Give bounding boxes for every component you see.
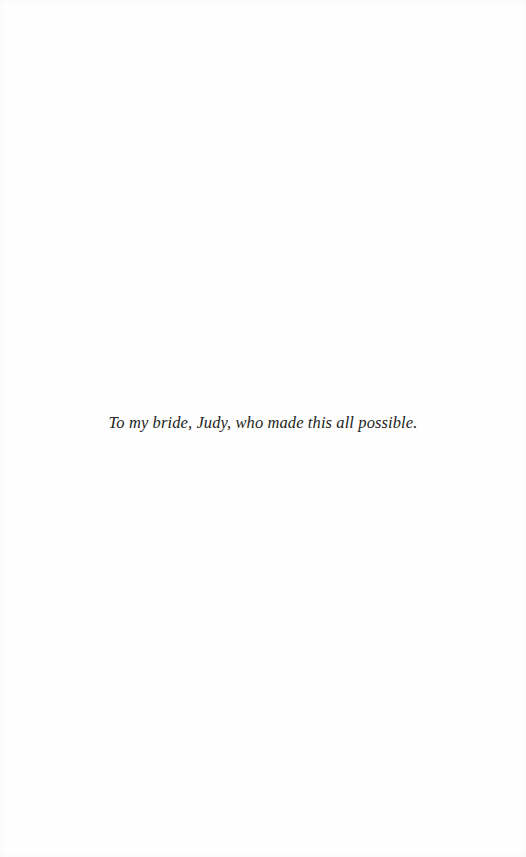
book-page: To my bride, Judy, who made this all pos…: [0, 0, 526, 857]
dedication-text: To my bride, Judy, who made this all pos…: [0, 412, 526, 434]
